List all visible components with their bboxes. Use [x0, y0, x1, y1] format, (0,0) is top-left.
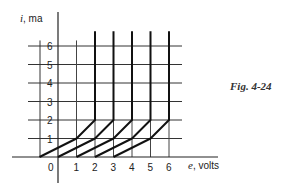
- x-tick-label: 6: [166, 162, 172, 173]
- x-tick-label: 0: [48, 162, 54, 173]
- y-tick-label: 4: [47, 78, 53, 89]
- x-tick-label: 4: [129, 162, 135, 173]
- x-axis-label: e, volts: [188, 159, 219, 171]
- x-tick-label: 1: [74, 162, 80, 173]
- x-tick-label: 5: [148, 162, 154, 173]
- x-tick-label: 3: [111, 162, 117, 173]
- y-tick-label: 2: [47, 115, 53, 126]
- chart-figure: 1234560123456 i, ma e, volts Fig. 4-24: [0, 0, 291, 191]
- y-tick-label: 6: [47, 41, 53, 52]
- y-tick-label: 1: [47, 134, 53, 145]
- figure-caption: Fig. 4-24: [229, 80, 272, 92]
- y-tick-label: 5: [47, 60, 53, 71]
- x-tick-label: 2: [92, 162, 98, 173]
- y-axis-label: i, ma: [20, 12, 43, 24]
- y-tick-label: 3: [47, 97, 53, 108]
